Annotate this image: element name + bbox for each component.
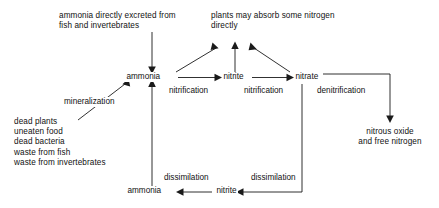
source-item-dead-bacteria: dead bacteria (14, 137, 65, 146)
edge-label-denitrification: denitrification (316, 86, 366, 96)
edge-denitrification (323, 74, 394, 123)
source-item-uneaten-food: uneaten food (14, 127, 63, 136)
caption-plants-line1: plants may absorb some nitrogen (211, 11, 335, 20)
edge-nitrate-to-plants (249, 43, 290, 73)
edge-label-mineralization: mineralization (63, 97, 116, 107)
edge-label-dissimilation-1: dissimilation (163, 173, 210, 183)
edge-nitrite-to-plants (231, 42, 238, 73)
edge-label-dissimilation-2: dissimilation (250, 173, 297, 183)
caption-nitrous-line1: nitrous oxide (366, 127, 414, 136)
caption-plants-line2: directly (211, 21, 238, 30)
source-item-waste-from-fish: waste from fish (14, 148, 70, 157)
edge-ammonia-to-nitrite (178, 74, 222, 81)
caption-nitrous-oxide: nitrous oxideand free nitrogen (341, 127, 439, 147)
node-nitrite-bottom: nitrite (215, 186, 238, 196)
caption-excreted-line2: fish and invertebrates (59, 21, 139, 30)
edge-excreted-to-ammonia (148, 32, 156, 74)
edge-label-nitrification-2: nitrification (243, 86, 284, 96)
caption-nitrous-line2: and free nitrogen (358, 137, 421, 146)
node-ammonia-bottom: ammonia (126, 186, 163, 196)
edge-label-nitrification-1: nitrification (168, 86, 209, 96)
node-ammonia-center: ammonia (125, 72, 162, 82)
edge-bottom-ammonia-to-ammonia (148, 79, 156, 186)
source-item-waste-from-invertebrates: waste from invertebrates (14, 158, 106, 167)
source-list: dead plantsuneaten fooddead bacteriawast… (14, 117, 106, 168)
node-nitrate-center: nitrate (294, 72, 320, 82)
node-nitrite-center: nitrite (222, 72, 245, 82)
caption-plants-absorb: plants may absorb some nitrogendirectly (211, 11, 335, 31)
edge-ammonia-to-plants (176, 43, 219, 73)
source-item-dead-plants: dead plants (14, 117, 57, 126)
caption-excreted: ammonia directly excreted fromfish and i… (59, 11, 176, 31)
edge-nitrite-to-nitrate (252, 74, 294, 81)
edge-bottom-nitrite-to-bottom-ammonia (176, 188, 212, 195)
caption-excreted-line1: ammonia directly excreted from (59, 11, 176, 20)
nitrogen-cycle-diagram: ammonia directly excreted fromfish and i… (0, 0, 439, 208)
